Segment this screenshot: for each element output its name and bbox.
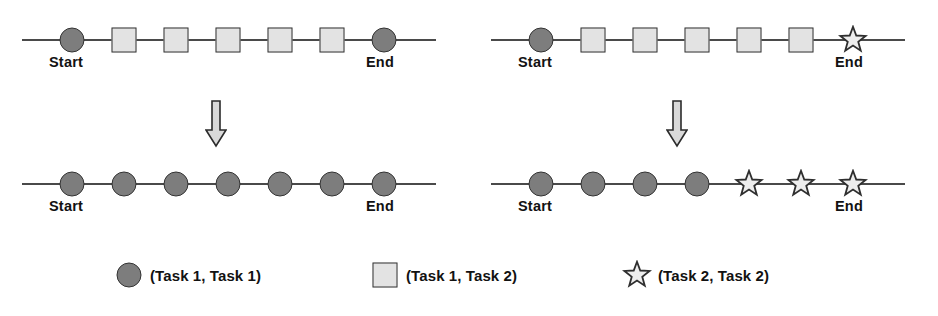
circle-marker-icon [60,28,85,53]
square-marker-icon [789,28,814,53]
square-marker-icon [320,28,345,53]
circle-marker-icon [117,263,142,288]
legend-item: (Task 1, Task 1) [112,258,261,292]
down-arrow-icon [666,100,688,148]
circle-marker-icon [685,172,710,197]
right-panel: StartEndStartEnd [469,0,938,250]
square-marker-icon [685,28,710,53]
legend-label: (Task 2, Task 2) [658,267,769,284]
start-label: Start [518,198,552,214]
down-arrow-icon [205,100,227,148]
circle-marker-icon [529,28,554,53]
legend-item: (Task 1, Task 2) [368,258,517,292]
legend-marker [112,258,146,292]
legend-label: (Task 1, Task 1) [150,267,261,284]
circle-marker-icon [529,172,554,197]
legend-label: (Task 1, Task 2) [406,267,517,284]
circle-marker-icon [633,172,658,197]
star-marker-icon [838,25,868,55]
legend-marker [368,258,402,292]
circle-marker-icon [60,172,85,197]
end-label: End [835,198,863,214]
circle-marker-icon [216,172,241,197]
square-marker-icon [216,28,241,53]
star-marker-icon [838,169,868,199]
start-label: Start [518,54,552,70]
right-panel-top-row: StartEnd [469,10,938,70]
square-marker-icon [373,263,398,288]
legend: (Task 1, Task 1)(Task 1, Task 2)(Task 2,… [0,258,938,302]
circle-marker-icon [268,172,293,197]
star-marker-icon [734,169,764,199]
right-panel-bottom-row: StartEnd [469,154,938,214]
circle-marker-icon [112,172,137,197]
left-panel-top-row: StartEnd [0,10,469,70]
start-label: Start [49,54,83,70]
start-label: Start [49,198,83,214]
circle-marker-icon [372,172,397,197]
star-marker-icon [622,260,652,290]
circle-marker-icon [581,172,606,197]
square-marker-icon [737,28,762,53]
square-marker-icon [268,28,293,53]
end-label: End [366,198,394,214]
circle-marker-icon [320,172,345,197]
end-label: End [366,54,394,70]
square-marker-icon [633,28,658,53]
star-marker-icon [786,169,816,199]
circle-marker-icon [372,28,397,53]
left-panel-bottom-row: StartEnd [0,154,469,214]
square-marker-icon [112,28,137,53]
legend-item: (Task 2, Task 2) [620,258,769,292]
left-panel: StartEndStartEnd [0,0,469,250]
square-marker-icon [164,28,189,53]
end-label: End [835,54,863,70]
legend-marker [620,258,654,292]
circle-marker-icon [164,172,189,197]
square-marker-icon [581,28,606,53]
